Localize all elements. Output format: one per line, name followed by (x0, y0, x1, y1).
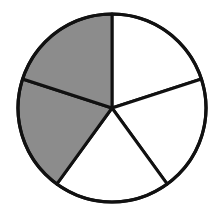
fraction-circle-diagram (0, 0, 220, 216)
